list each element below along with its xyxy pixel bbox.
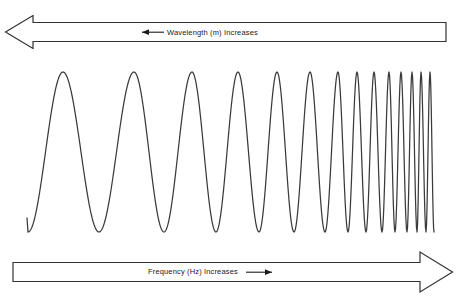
chirp-wave-path [27,72,434,232]
wave-diagram-figure: Wavelength (m) Increases Frequency (Hz) … [0,0,459,299]
diagram-canvas [0,0,459,299]
wavelength-arrow-label: Wavelength (m) Increases [167,28,258,37]
frequency-arrow-label: Frequency (Hz) Increases [148,267,238,276]
